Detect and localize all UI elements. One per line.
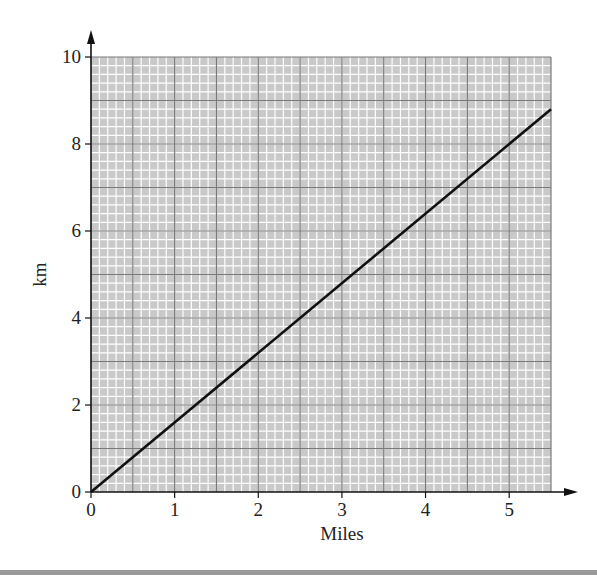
y-axis-label: km <box>29 262 50 287</box>
y-axis-arrow-icon <box>87 30 95 44</box>
y-tick-label: 6 <box>72 220 82 241</box>
x-axis-arrow-icon <box>564 488 578 496</box>
x-tick-label: 3 <box>337 499 347 520</box>
y-tick-label: 2 <box>72 394 82 415</box>
y-tick-label: 0 <box>72 481 82 502</box>
x-axis-label: Miles <box>320 523 363 544</box>
y-tick-label: 4 <box>72 307 82 328</box>
y-tick-label: 8 <box>72 133 82 154</box>
x-tick-label: 4 <box>421 499 431 520</box>
x-tick-label: 0 <box>86 499 96 520</box>
line-chart: 0123450246810Mileskm <box>0 0 597 575</box>
x-tick-label: 1 <box>170 499 180 520</box>
x-tick-label: 2 <box>254 499 264 520</box>
y-tick-label: 10 <box>62 46 81 67</box>
page-bottom-rule <box>0 570 597 575</box>
x-tick-label: 5 <box>504 499 514 520</box>
